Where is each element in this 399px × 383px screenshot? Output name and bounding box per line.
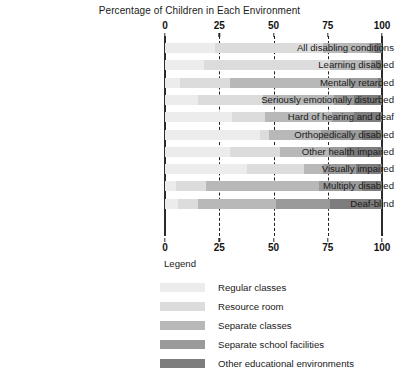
legend-swatch <box>160 321 205 330</box>
category-label: Learning disabled <box>234 59 394 70</box>
bar-segment <box>165 43 215 53</box>
bar-segment <box>165 95 198 105</box>
legend-label: Separate classes <box>218 320 292 331</box>
x-tick-label: 75 <box>322 242 333 253</box>
legend-entries: Regular classesResource roomSeparate cla… <box>160 278 396 373</box>
bar-segment <box>180 78 230 88</box>
x-tick-label: 50 <box>268 242 279 253</box>
legend-title: Legend <box>160 258 396 269</box>
x-tick-label: 0 <box>162 242 168 253</box>
legend-label: Regular classes <box>218 282 286 293</box>
legend-entry: Other educational environments <box>160 354 396 373</box>
category-label: Orthopedically disabled <box>234 129 394 140</box>
legend-label: Other educational environments <box>218 358 354 369</box>
category-label: Mentally retarded <box>234 77 394 88</box>
legend-entry: Resource room <box>160 297 396 316</box>
category-label: Hard of hearing and deaf <box>234 111 394 122</box>
category-label: Seriously emotionally disturbed <box>234 94 394 105</box>
x-axis-bottom: 0255075100 <box>165 238 382 254</box>
bar-segment <box>165 78 180 88</box>
legend-swatch <box>160 302 205 311</box>
category-label: All disabling conditions <box>234 42 394 53</box>
legend-entry: Separate school facilities <box>160 335 396 354</box>
legend-swatch <box>160 340 205 349</box>
legend-swatch <box>160 359 205 368</box>
stacked-bar-chart: Percentage of Children in Each Environme… <box>0 0 399 383</box>
bar-segment <box>178 199 198 209</box>
legend-entry: Regular classes <box>160 278 396 297</box>
bar-segment <box>165 199 178 209</box>
bar-segment <box>165 112 232 122</box>
chart-title: Percentage of Children in Each Environme… <box>0 5 399 16</box>
legend-entry: Separate classes <box>160 316 396 335</box>
x-tick-label: 100 <box>374 242 391 253</box>
bar-segment <box>165 181 176 191</box>
category-label: Visually impaired <box>234 163 394 174</box>
legend-swatch <box>160 283 205 292</box>
bar-segment <box>165 147 230 157</box>
legend-label: Separate school facilities <box>218 339 324 350</box>
legend: Legend Regular classesResource roomSepar… <box>160 258 396 373</box>
legend-label: Resource room <box>218 301 284 312</box>
category-label: Multiply disabled <box>234 180 394 191</box>
bar-segment <box>176 181 206 191</box>
category-label: Other health impaired <box>234 146 394 157</box>
category-label: Deaf-blind <box>234 198 394 209</box>
x-tick-label: 25 <box>214 242 225 253</box>
bar-segment <box>165 60 204 70</box>
